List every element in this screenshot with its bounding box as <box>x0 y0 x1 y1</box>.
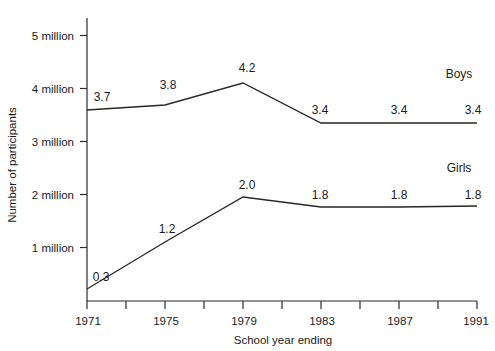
y-axis-title: Number of participants <box>6 107 18 223</box>
x-tick-labels: 1971 1975 1979 1983 1987 1991 <box>75 315 489 327</box>
data-label-boys-1979: 4.2 <box>239 61 256 75</box>
series-boys: 3.7 3.8 4.2 3.4 3.4 3.4 Boys <box>87 61 482 123</box>
data-label-boys-1991: 3.4 <box>465 103 482 117</box>
y-tick-label-2: 2 million <box>32 189 74 201</box>
y-tick-label-1: 1 million <box>32 242 74 254</box>
y-tick-label-3: 3 million <box>32 136 74 148</box>
data-label-girls-1983: 1.8 <box>312 188 329 202</box>
y-tick-marks <box>80 36 87 248</box>
data-label-boys-1983: 3.4 <box>312 103 329 117</box>
series-label-boys: Boys <box>446 67 473 81</box>
x-tick-label-1975: 1975 <box>153 315 179 327</box>
x-tick-label-1991: 1991 <box>463 315 489 327</box>
x-tick-label-1979: 1979 <box>231 315 257 327</box>
data-label-boys-1987: 3.4 <box>391 103 408 117</box>
data-label-girls-1975: 1.2 <box>159 222 176 236</box>
data-label-girls-1971: 0.3 <box>93 270 110 284</box>
series-line-girls <box>87 197 477 289</box>
chart-canvas: 5 million 4 million 3 million 2 million … <box>0 0 495 351</box>
x-axis-title: School year ending <box>234 334 332 346</box>
x-tick-marks <box>87 301 477 309</box>
data-label-boys-1971: 3.7 <box>94 90 111 104</box>
y-tick-label-4: 4 million <box>32 83 74 95</box>
data-label-girls-1979: 2.0 <box>239 178 256 192</box>
data-label-girls-1991: 1.8 <box>465 188 482 202</box>
axes-group <box>87 18 477 301</box>
x-tick-label-1987: 1987 <box>387 315 413 327</box>
y-tick-label-5: 5 million <box>32 30 74 42</box>
x-tick-label-1983: 1983 <box>309 315 335 327</box>
data-label-girls-1987: 1.8 <box>391 188 408 202</box>
line-chart: 5 million 4 million 3 million 2 million … <box>0 0 495 351</box>
y-tick-labels: 5 million 4 million 3 million 2 million … <box>32 30 74 254</box>
data-label-boys-1975: 3.8 <box>160 78 177 92</box>
series-girls: 0.3 1.2 2.0 1.8 1.8 1.8 Girls <box>87 161 482 289</box>
series-line-boys <box>87 83 477 123</box>
series-label-girls: Girls <box>447 161 472 175</box>
x-tick-label-1971: 1971 <box>75 315 101 327</box>
